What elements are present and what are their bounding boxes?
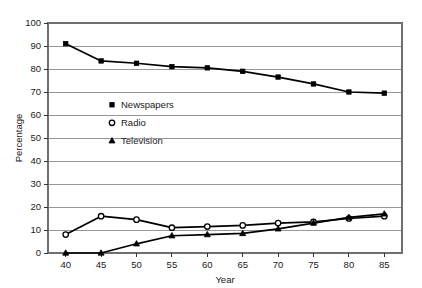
x-tick-label-75: 75 bbox=[308, 259, 319, 270]
data-series-group bbox=[63, 42, 388, 256]
data-point-radio-50 bbox=[134, 217, 139, 222]
data-point-newspapers-40 bbox=[64, 42, 68, 46]
chart-figure: 0102030405060708090100 40455055606570758… bbox=[0, 0, 422, 288]
x-tick-label-70: 70 bbox=[273, 259, 284, 270]
x-tick-label-55: 55 bbox=[167, 259, 178, 270]
y-tick-label-10: 10 bbox=[30, 224, 41, 235]
data-point-radio-65 bbox=[240, 223, 245, 228]
legend-entry-television: Television bbox=[109, 135, 163, 146]
x-tick-label-50: 50 bbox=[131, 259, 142, 270]
x-tick-label-65: 65 bbox=[237, 259, 248, 270]
x-tick-label-45: 45 bbox=[96, 259, 107, 270]
data-point-newspapers-50 bbox=[134, 61, 138, 65]
data-point-newspapers-60 bbox=[205, 66, 209, 70]
line-chart: 0102030405060708090100 40455055606570758… bbox=[0, 0, 422, 288]
y-tick-label-30: 30 bbox=[30, 178, 41, 189]
legend-marker-newspapers bbox=[110, 103, 114, 107]
data-point-newspapers-55 bbox=[170, 65, 174, 69]
x-axis-tick-marks bbox=[66, 253, 385, 257]
y-axis-tick-marks bbox=[44, 23, 48, 253]
y-tick-label-100: 100 bbox=[25, 17, 41, 28]
data-point-radio-55 bbox=[169, 225, 174, 230]
data-point-radio-60 bbox=[205, 224, 210, 229]
series-line-newspapers bbox=[66, 44, 385, 93]
x-tick-label-40: 40 bbox=[60, 259, 71, 270]
x-tick-label-85: 85 bbox=[379, 259, 390, 270]
x-tick-label-60: 60 bbox=[202, 259, 213, 270]
x-tick-label-80: 80 bbox=[344, 259, 355, 270]
y-tick-label-40: 40 bbox=[30, 155, 41, 166]
y-tick-label-90: 90 bbox=[30, 40, 41, 51]
y-axis-title: Percentage bbox=[13, 114, 24, 163]
legend-marker-radio bbox=[109, 120, 114, 125]
y-axis-tick-labels: 0102030405060708090100 bbox=[25, 17, 41, 258]
legend-label-television: Television bbox=[121, 135, 163, 146]
series-newspapers bbox=[64, 42, 387, 96]
data-point-newspapers-80 bbox=[347, 90, 351, 94]
y-tick-label-70: 70 bbox=[30, 86, 41, 97]
data-point-newspapers-75 bbox=[311, 82, 315, 86]
y-tick-label-60: 60 bbox=[30, 109, 41, 120]
legend-label-newspapers: Newspapers bbox=[121, 99, 174, 110]
data-point-newspapers-70 bbox=[276, 75, 280, 79]
y-tick-label-20: 20 bbox=[30, 201, 41, 212]
y-tick-label-50: 50 bbox=[30, 132, 41, 143]
data-point-newspapers-45 bbox=[99, 59, 103, 63]
x-axis-title: Year bbox=[215, 274, 234, 285]
chart-legend: NewspapersRadioTelevision bbox=[109, 99, 174, 146]
data-point-radio-40 bbox=[63, 232, 68, 237]
legend-entry-newspapers: Newspapers bbox=[110, 99, 174, 110]
data-point-radio-45 bbox=[98, 214, 103, 219]
x-axis-tick-labels: 40455055606570758085 bbox=[60, 259, 389, 270]
data-point-newspapers-65 bbox=[241, 69, 245, 73]
y-tick-label-0: 0 bbox=[36, 247, 41, 258]
gridline-group bbox=[48, 46, 402, 230]
legend-label-radio: Radio bbox=[121, 117, 146, 128]
data-point-newspapers-85 bbox=[382, 91, 386, 95]
legend-entry-radio: Radio bbox=[109, 117, 146, 128]
y-tick-label-80: 80 bbox=[30, 63, 41, 74]
series-line-television bbox=[66, 214, 385, 253]
